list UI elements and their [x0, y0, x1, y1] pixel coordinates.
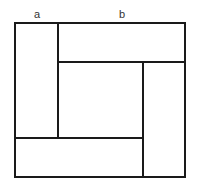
label-a: a	[34, 8, 41, 20]
bottom-rectangle	[15, 138, 143, 177]
center-square	[58, 62, 143, 138]
left-rectangle	[15, 23, 58, 138]
outer-square	[15, 23, 185, 177]
right-rectangle	[143, 62, 185, 177]
label-b: b	[119, 8, 125, 20]
tiling-diagram: a b	[0, 0, 197, 191]
top-rectangle	[58, 23, 185, 62]
